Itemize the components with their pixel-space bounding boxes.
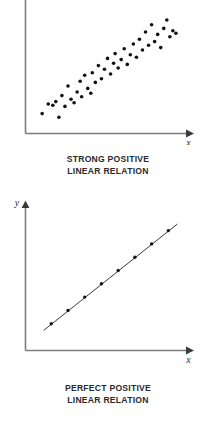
scatter-caption-line-1: STRONG POSITIVE xyxy=(67,154,150,164)
line-data-point xyxy=(167,229,170,232)
scatter-caption: STRONG POSITIVE LINEAR RELATION xyxy=(0,154,216,177)
scatter-data-point xyxy=(116,66,120,70)
line-caption-line-1: PERFECT POSITIVE xyxy=(65,383,151,393)
line-data-point xyxy=(83,295,86,298)
scatter-data-point xyxy=(141,48,145,52)
scatter-data-point xyxy=(138,37,142,41)
scatter-data-point xyxy=(40,112,44,116)
scatter-data-point xyxy=(109,72,113,76)
scatter-plot-area: x xyxy=(0,0,216,145)
scatter-data-point xyxy=(94,81,98,85)
scatter-data-point xyxy=(153,40,157,44)
scatter-data-point xyxy=(100,77,104,81)
line-data-point xyxy=(133,256,136,259)
line-plot-area: y x xyxy=(0,190,216,375)
line-y-axis-arrow-icon xyxy=(22,201,30,209)
scatter-data-point xyxy=(72,101,76,105)
scatter-caption-line-2: LINEAR RELATION xyxy=(0,166,216,178)
line-caption: PERFECT POSITIVE LINEAR RELATION xyxy=(0,383,216,406)
scatter-data-point xyxy=(66,84,70,88)
scatter-data-point xyxy=(144,30,148,34)
figure-strong-positive: x STRONG POSITIVE LINEAR RELATION xyxy=(0,0,216,190)
figure-perfect-positive: y x PERFECT POSITIVE LINEAR RELATION xyxy=(0,190,216,423)
scatter-data-point xyxy=(113,52,117,56)
scatter-data-point xyxy=(168,35,172,39)
scatter-data-point xyxy=(119,58,123,62)
scatter-data-point xyxy=(174,31,178,35)
scatter-data-point xyxy=(91,71,95,75)
scatter-data-point xyxy=(63,105,67,109)
scatter-data-point xyxy=(103,67,107,71)
scatter-data-point xyxy=(83,73,87,77)
scatter-data-point xyxy=(132,42,136,46)
line-x-axis-label: x xyxy=(185,354,191,365)
scatter-data-point xyxy=(60,94,64,98)
line-data-point xyxy=(100,282,103,285)
scatter-data-point xyxy=(135,55,139,59)
line-caption-line-2: LINEAR RELATION xyxy=(0,395,216,407)
scatter-x-axis-label: x xyxy=(185,137,191,146)
scatter-data-point xyxy=(129,53,133,57)
scatter-data-point xyxy=(46,102,50,106)
scatter-data-point xyxy=(150,23,154,27)
scatter-data-point xyxy=(171,29,175,33)
scatter-data-point xyxy=(69,97,73,101)
perfect-linear-trend-line xyxy=(44,224,178,330)
scatter-data-point xyxy=(54,100,58,104)
scatter-data-point xyxy=(80,95,84,99)
scatter-plot-svg: x xyxy=(0,0,216,145)
line-plot-svg: y x xyxy=(0,190,216,375)
line-y-axis-label: y xyxy=(14,197,20,208)
scatter-data-point xyxy=(125,63,129,67)
scatter-data-point xyxy=(78,79,82,83)
scatter-data-point xyxy=(86,87,90,91)
scatter-data-point xyxy=(122,47,126,51)
scatter-data-point xyxy=(89,91,93,95)
line-data-point xyxy=(66,309,69,312)
scatter-data-point xyxy=(156,33,160,37)
scatter-data-point xyxy=(75,90,79,94)
scatter-data-point xyxy=(57,115,61,119)
line-data-point xyxy=(50,322,53,325)
scatter-data-point xyxy=(51,103,55,107)
scatter-data-point xyxy=(165,18,169,22)
scatter-data-point xyxy=(162,27,166,31)
scatter-data-point xyxy=(159,46,163,50)
scatter-points-group xyxy=(40,18,177,119)
scatter-data-point xyxy=(112,61,116,65)
scatter-data-point xyxy=(147,43,151,47)
scatter-data-point xyxy=(97,64,101,68)
line-data-point xyxy=(150,242,153,245)
line-data-point xyxy=(116,269,119,272)
scatter-data-point xyxy=(106,57,110,61)
